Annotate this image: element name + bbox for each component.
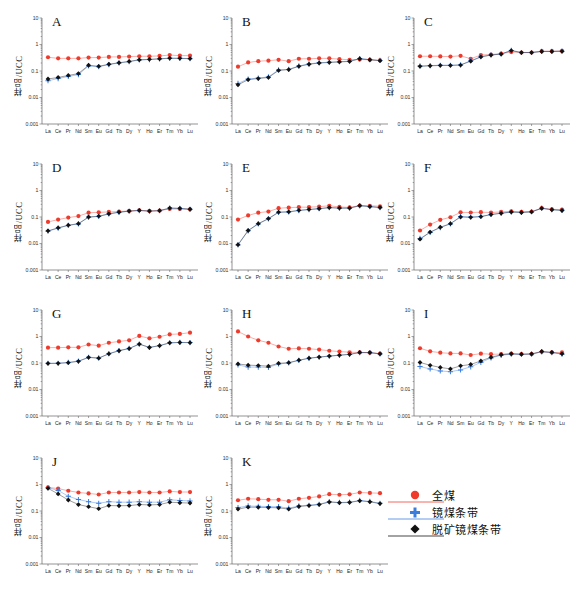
svg-text:0.001: 0.001 <box>398 267 411 273</box>
svg-text:La: La <box>235 568 241 574</box>
svg-text:Gd: Gd <box>106 128 113 134</box>
svg-text:Tb: Tb <box>116 128 122 134</box>
legend-item-vitrain-band: 镜煤条带 <box>388 503 570 520</box>
svg-text:Dy: Dy <box>316 274 323 280</box>
svg-text:La: La <box>417 128 423 134</box>
svg-text:Pr: Pr <box>66 420 71 426</box>
svg-text:1: 1 <box>36 481 39 487</box>
svg-text:Tm: Tm <box>356 420 363 426</box>
legend-marker-diamond-icon <box>404 521 426 537</box>
svg-text:10: 10 <box>33 161 39 167</box>
svg-text:Dy: Dy <box>126 128 133 134</box>
svg-text:1: 1 <box>408 41 411 47</box>
svg-text:Gd: Gd <box>478 128 485 134</box>
svg-text:0.001: 0.001 <box>398 121 411 127</box>
svg-text:Er: Er <box>347 568 352 574</box>
chart-panel-b: 样品/UCCB1010.10.010.001LaCePrNdSmEuGdTbDy… <box>204 6 394 152</box>
svg-text:Sm: Sm <box>457 128 465 134</box>
svg-text:1: 1 <box>36 187 39 193</box>
svg-text:Tm: Tm <box>166 420 173 426</box>
plot-svg-wrapper: 1010.10.010.001LaCePrNdSmEuGdTbDyYHoErTm… <box>386 152 574 298</box>
svg-text:0.01: 0.01 <box>218 386 228 392</box>
svg-text:Nd: Nd <box>265 274 272 280</box>
svg-text:Ce: Ce <box>55 420 62 426</box>
svg-text:Gd: Gd <box>106 568 113 574</box>
svg-text:Pr: Pr <box>66 128 71 134</box>
svg-text:Er: Er <box>347 128 352 134</box>
svg-text:Ce: Ce <box>245 568 252 574</box>
svg-text:Tb: Tb <box>488 274 494 280</box>
svg-text:Y: Y <box>510 274 514 280</box>
svg-text:Tb: Tb <box>488 420 494 426</box>
svg-text:0.1: 0.1 <box>31 508 38 514</box>
svg-text:Tb: Tb <box>306 420 312 426</box>
svg-text:Lu: Lu <box>559 128 565 134</box>
plot-svg-wrapper: 1010.10.010.001LaCePrNdSmEuGdTbDyYHoErTm… <box>386 6 574 152</box>
plot-area-f: 1010.10.010.001LaCePrNdSmEuGdTbDyYHoErTm… <box>386 152 574 298</box>
svg-text:Eu: Eu <box>468 128 474 134</box>
svg-text:Ce: Ce <box>427 274 434 280</box>
plot-area-h: 1010.10.010.001LaCePrNdSmEuGdTbDyYHoErTm… <box>204 298 394 444</box>
plot-svg-wrapper: 1010.10.010.001LaCePrNdSmEuGdTbDyYHoErTm… <box>14 152 204 298</box>
svg-text:10: 10 <box>405 15 411 21</box>
svg-text:Eu: Eu <box>286 568 292 574</box>
svg-text:Gd: Gd <box>296 128 303 134</box>
chart-panel-k: 样品/UCCK1010.10.010.001LaCePrNdSmEuGdTbDy… <box>204 446 394 592</box>
svg-text:Y: Y <box>328 568 332 574</box>
svg-text:Pr: Pr <box>256 128 261 134</box>
svg-text:0.1: 0.1 <box>221 508 228 514</box>
svg-text:Y: Y <box>328 274 332 280</box>
svg-text:10: 10 <box>223 161 229 167</box>
svg-text:Yb: Yb <box>549 274 555 280</box>
svg-text:Y: Y <box>510 420 514 426</box>
svg-text:Ho: Ho <box>518 274 525 280</box>
svg-text:0.01: 0.01 <box>218 240 228 246</box>
svg-text:Nd: Nd <box>265 420 272 426</box>
svg-text:Nd: Nd <box>447 128 454 134</box>
svg-text:Eu: Eu <box>96 420 102 426</box>
svg-text:Er: Er <box>529 274 534 280</box>
svg-text:Lu: Lu <box>559 420 565 426</box>
svg-text:Nd: Nd <box>75 568 82 574</box>
svg-text:Gd: Gd <box>296 420 303 426</box>
svg-text:0.01: 0.01 <box>28 94 38 100</box>
svg-text:Lu: Lu <box>377 568 383 574</box>
svg-text:Tm: Tm <box>356 568 363 574</box>
svg-text:La: La <box>45 420 51 426</box>
svg-text:Lu: Lu <box>187 274 193 280</box>
svg-text:Sm: Sm <box>85 568 93 574</box>
legend-item-demineralized-vitrain-band: 脱矿镜煤条带 <box>388 520 570 537</box>
plot-svg-wrapper: 1010.10.010.001LaCePrNdSmEuGdTbDyYHoErTm… <box>14 298 204 444</box>
svg-text:Er: Er <box>157 128 162 134</box>
svg-text:Y: Y <box>328 128 332 134</box>
svg-text:Lu: Lu <box>377 274 383 280</box>
svg-text:0.001: 0.001 <box>216 413 229 419</box>
svg-text:Pr: Pr <box>66 274 71 280</box>
svg-text:Ce: Ce <box>245 420 252 426</box>
svg-text:Dy: Dy <box>316 568 323 574</box>
svg-text:Dy: Dy <box>498 420 505 426</box>
chart-panel-i: 样品/UCCI1010.10.010.001LaCePrNdSmEuGdTbDy… <box>386 298 574 444</box>
svg-text:La: La <box>45 274 51 280</box>
svg-text:0.001: 0.001 <box>26 413 39 419</box>
plot-area-d: 1010.10.010.001LaCePrNdSmEuGdTbDyYHoErTm… <box>14 152 204 298</box>
svg-text:Gd: Gd <box>478 420 485 426</box>
svg-text:Tb: Tb <box>306 128 312 134</box>
svg-text:Yb: Yb <box>177 420 183 426</box>
chart-panel-e: 样品/UCCE1010.10.010.001LaCePrNdSmEuGdTbDy… <box>204 152 394 298</box>
svg-text:Dy: Dy <box>498 274 505 280</box>
svg-text:Er: Er <box>347 420 352 426</box>
svg-text:Yb: Yb <box>367 274 373 280</box>
svg-text:Pr: Pr <box>438 420 443 426</box>
svg-text:Er: Er <box>529 128 534 134</box>
svg-text:Lu: Lu <box>187 420 193 426</box>
svg-text:0.1: 0.1 <box>403 360 410 366</box>
plot-svg-wrapper: 1010.10.010.001LaCePrNdSmEuGdTbDyYHoErTm… <box>204 6 394 152</box>
svg-text:0.001: 0.001 <box>216 121 229 127</box>
svg-text:Tm: Tm <box>538 128 545 134</box>
svg-text:Eu: Eu <box>96 274 102 280</box>
plot-area-c: 1010.10.010.001LaCePrNdSmEuGdTbDyYHoErTm… <box>386 6 574 152</box>
svg-text:Dy: Dy <box>316 128 323 134</box>
svg-text:10: 10 <box>405 307 411 313</box>
svg-text:Sm: Sm <box>275 568 283 574</box>
